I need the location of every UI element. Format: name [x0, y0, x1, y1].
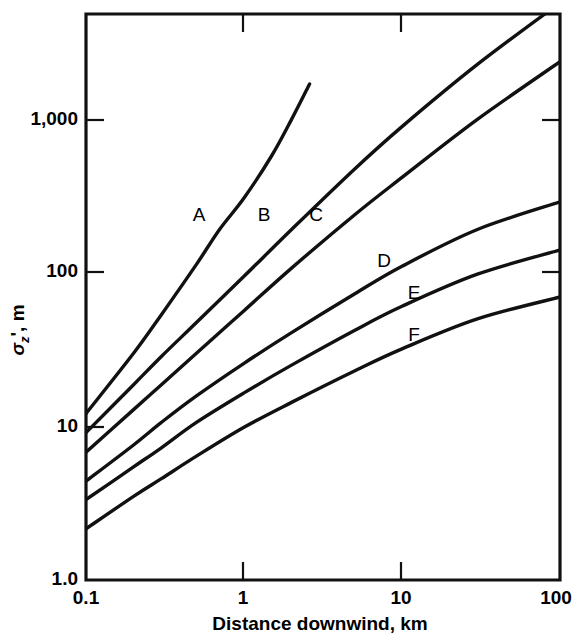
curve-label-d: D	[377, 250, 391, 271]
y-axis-title-rest: ', m	[7, 304, 28, 336]
plot-frame	[86, 14, 560, 580]
curve-group	[86, 3, 560, 529]
curve-label-a: A	[193, 204, 206, 225]
curve-e	[86, 250, 560, 500]
y-axis-title: σz', m	[7, 304, 32, 355]
y-tick-label-10: 10	[57, 415, 78, 436]
curve-c	[86, 62, 560, 452]
curve-label-b: B	[258, 204, 271, 225]
x-tick-label-10: 10	[390, 587, 411, 608]
x-axis-ticks	[243, 562, 401, 580]
caption-strip-partial	[0, 630, 582, 644]
y-tick-labels: 1,000 100 10 1.0	[30, 108, 78, 589]
x-tick-label-100: 100	[540, 587, 572, 608]
y-tick-label-100: 100	[46, 260, 78, 281]
svg-text:σz', m: σz', m	[7, 304, 32, 355]
curve-d	[86, 202, 560, 481]
y-axis-ticks	[86, 120, 104, 427]
curve-a	[86, 84, 310, 414]
x-tick-label-1: 1	[238, 587, 249, 608]
chart-figure: 1,000 100 10 1.0 0.1 1 10 100 Distance d…	[0, 0, 582, 644]
curve-label-c: C	[309, 204, 323, 225]
curve-label-f: F	[408, 324, 420, 345]
curve-b	[86, 3, 560, 433]
axis-frame-rect	[86, 14, 560, 580]
x-tick-labels: 0.1 1 10 100	[73, 587, 572, 608]
curve-label-e: E	[408, 282, 421, 303]
y-tick-label-1: 1.0	[52, 568, 78, 589]
y-tick-label-1000: 1,000	[30, 108, 78, 129]
x-axis-ticks-top	[243, 14, 401, 32]
curve-f	[86, 297, 560, 529]
x-tick-label-0-1: 0.1	[73, 587, 100, 608]
sigma-z-dispersion-chart: 1,000 100 10 1.0 0.1 1 10 100 Distance d…	[0, 0, 582, 644]
